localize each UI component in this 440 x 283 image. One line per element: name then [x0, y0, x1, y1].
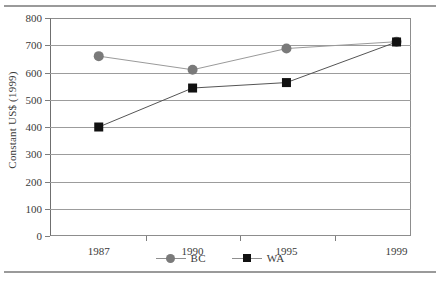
data-point-wa — [392, 37, 401, 46]
legend-swatch-bc — [156, 252, 186, 264]
y-tick-label: 700 — [26, 39, 43, 51]
y-tick-label: 500 — [26, 94, 43, 106]
data-point-wa — [94, 123, 103, 132]
legend-swatch-wa — [232, 252, 262, 264]
y-axis-title: Constant US$ (1999) — [0, 0, 24, 240]
y-tick-label: 300 — [26, 148, 43, 160]
data-point-bc — [281, 44, 291, 54]
legend-item-wa[interactable]: WA — [232, 252, 285, 264]
chart-legend: BCWA — [0, 252, 440, 264]
legend-item-bc[interactable]: BC — [156, 252, 206, 264]
y-tick-label: 800 — [26, 12, 43, 24]
y-tick-label: 100 — [26, 203, 43, 215]
data-point-wa — [188, 84, 197, 93]
y-tick-label: 200 — [26, 176, 43, 188]
data-point-bc — [188, 65, 198, 75]
series-line-bc — [99, 42, 397, 70]
legend-label: WA — [267, 252, 285, 264]
x-tick-mark — [240, 236, 241, 241]
line-chart-figure: Constant US$ (1999) 01002003004005006007… — [0, 0, 440, 283]
plot-area: 0100200300400500600700800 19871990199519… — [50, 18, 411, 236]
y-tick-label: 600 — [26, 67, 43, 79]
data-point-wa — [282, 78, 291, 87]
y-axis-title-label: Constant US$ (1999) — [6, 71, 18, 168]
data-point-bc — [94, 51, 104, 61]
y-tick-mark — [45, 236, 50, 237]
y-tick-label: 0 — [37, 230, 43, 242]
x-tick-mark — [335, 236, 336, 241]
x-tick-mark — [146, 236, 147, 241]
y-tick-label: 400 — [26, 121, 43, 133]
legend-label: BC — [191, 252, 206, 264]
legend-marker-circle-icon — [166, 254, 175, 263]
series-line-wa — [99, 42, 397, 127]
legend-marker-square-icon — [243, 254, 251, 262]
data-series-layer — [50, 18, 411, 236]
